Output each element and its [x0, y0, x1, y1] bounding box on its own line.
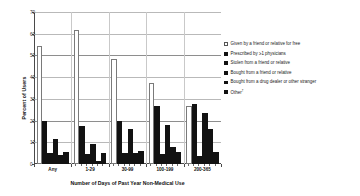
bar	[138, 151, 143, 164]
x-tick-minor	[97, 164, 98, 166]
bar-group	[184, 12, 221, 164]
plot-area: 010203040506070	[34, 12, 221, 164]
x-tick-minor	[215, 164, 216, 166]
bar-chart-figure: Percent of Users 010203040506070 Any1-29…	[0, 0, 360, 196]
legend-item[interactable]: Prescribed by ≥1 physicians	[224, 52, 356, 56]
group-separator	[184, 12, 185, 164]
legend-swatch-icon	[224, 71, 228, 75]
x-tick-minor	[161, 164, 162, 166]
legend-item[interactable]: Given by a friend or relative for free	[224, 42, 356, 46]
x-tick-minor	[129, 164, 130, 166]
group-separator	[109, 12, 110, 164]
bar	[63, 152, 68, 164]
x-tick-minor	[172, 164, 173, 166]
x-tick-minor	[81, 164, 82, 166]
legend-item[interactable]: Bought from a drug dealer or other stran…	[224, 80, 356, 84]
bar	[213, 152, 218, 164]
x-tick-minor	[193, 164, 194, 166]
legend-item-label: Prescribed by ≥1 physicians	[231, 52, 286, 56]
legend-item[interactable]: Other†	[224, 90, 356, 96]
group-separator	[146, 12, 147, 164]
x-tick-minor	[113, 164, 114, 166]
legend-swatch-icon	[224, 42, 228, 46]
x-tick-minor	[188, 164, 189, 166]
chart-legend: Given by a friend or relative for freePr…	[224, 42, 356, 101]
x-axis-tick-labels: Any1-2930-99100-199200-365	[34, 167, 221, 175]
x-tick-minor	[140, 164, 141, 166]
bar	[176, 152, 181, 164]
x-tick-minor	[124, 164, 125, 166]
legend-item-label: Stolen from a friend or relative	[231, 61, 290, 65]
bar-group	[109, 12, 146, 164]
bar	[192, 104, 197, 164]
x-tick-minor	[102, 164, 103, 166]
x-tick-minor	[209, 164, 210, 166]
legend-item[interactable]: Bought from a friend or relative	[224, 71, 356, 75]
x-tick-minor	[86, 164, 87, 166]
legend-item-label: Bought from a friend or relative	[231, 71, 292, 75]
bar-group	[71, 12, 108, 164]
bar-groups	[34, 12, 221, 164]
x-tick-label: 1-29	[71, 167, 108, 175]
legend-item-label: Bought from a drug dealer or other stran…	[231, 80, 317, 84]
x-tick-minor	[204, 164, 205, 166]
legend-swatch-icon	[224, 90, 228, 94]
legend-item-label: Given by a friend or relative for free	[231, 42, 301, 46]
x-tick-minor	[134, 164, 135, 166]
x-tick-label: 30-99	[109, 167, 146, 175]
x-tick-label: 100-199	[146, 167, 183, 175]
bar	[101, 153, 106, 164]
x-tick-minor	[150, 164, 151, 166]
x-tick-minor	[198, 164, 199, 166]
x-tick-label: Any	[34, 167, 71, 175]
y-axis-title: Percent of Users	[21, 77, 27, 120]
x-tick-major	[221, 164, 222, 167]
x-tick-minor	[92, 164, 93, 166]
x-axis-title: Number of Days of Past Year Non-Medical …	[34, 180, 221, 186]
x-tick-minor	[166, 164, 167, 166]
legend-item-label: Other†	[231, 90, 244, 96]
x-tick-minor	[118, 164, 119, 166]
legend-swatch-icon	[224, 52, 228, 56]
legend-swatch-icon	[224, 61, 228, 65]
bar-group	[146, 12, 183, 164]
legend-swatch-icon	[224, 81, 228, 85]
x-tick-minor	[177, 164, 178, 166]
x-tick-minor	[75, 164, 76, 166]
legend-item[interactable]: Stolen from a friend or relative	[224, 61, 356, 65]
x-tick-minor	[156, 164, 157, 166]
bar-group	[34, 12, 71, 164]
group-separator	[71, 12, 72, 164]
x-tick-label: 200-365	[184, 167, 221, 175]
